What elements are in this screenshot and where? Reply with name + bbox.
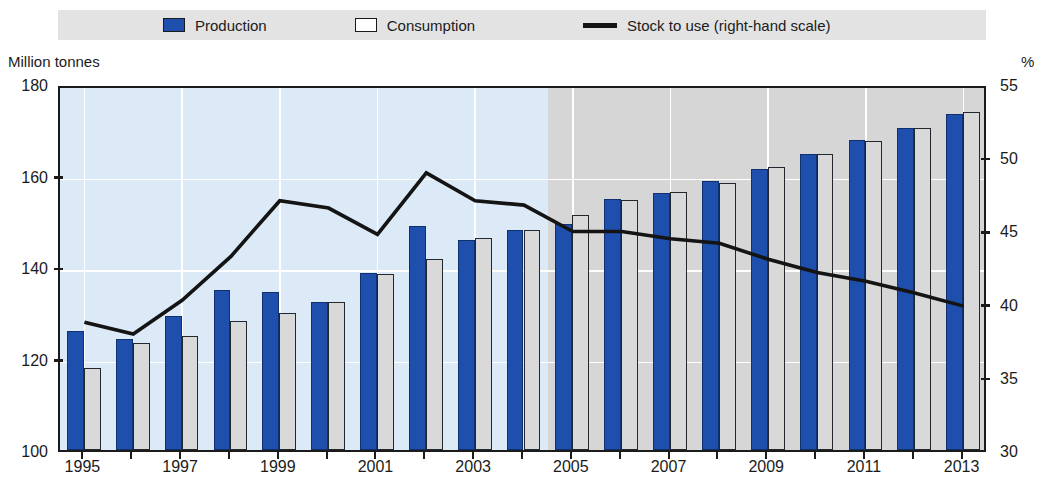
stock-to-use-line: [60, 88, 984, 450]
right-axis-tick-label: 55: [1000, 78, 1042, 94]
blue-square-swatch-icon: [163, 18, 185, 32]
right-axis-tick: [981, 378, 990, 381]
x-axis-tick-label: 2013: [944, 458, 980, 476]
left-axis-tick-label: 100: [6, 444, 48, 460]
right-axis-tick: [981, 231, 990, 234]
x-axis-tick-label: 1999: [260, 458, 296, 476]
legend-label-stock-to-use: Stock to use (right-hand scale): [627, 17, 830, 34]
left-axis-tick: [54, 268, 63, 271]
x-axis-tick: [912, 452, 914, 459]
x-axis-tick: [423, 452, 425, 459]
right-axis-caption: %: [1021, 53, 1034, 70]
x-axis-tick-label: 2005: [553, 458, 589, 476]
legend-item-consumption: Consumption: [355, 17, 475, 34]
stock-to-use-polyline: [84, 173, 963, 334]
left-axis-tick-label: 140: [6, 261, 48, 277]
x-axis-tick: [716, 452, 718, 459]
x-axis-tick-label: 2011: [847, 458, 881, 476]
x-axis-tick-label: 2007: [651, 458, 687, 476]
x-axis-tick-label: 1995: [65, 458, 101, 476]
right-axis-tick-label: 45: [1000, 224, 1042, 240]
black-line-swatch-icon: [583, 23, 617, 28]
x-axis-tick: [814, 452, 816, 459]
left-axis-tick: [54, 359, 63, 362]
left-axis-tick-label: 120: [6, 353, 48, 369]
left-axis-tick-label: 160: [6, 170, 48, 186]
right-axis-tick-label: 40: [1000, 298, 1042, 314]
right-axis-tick: [981, 304, 990, 307]
white-square-swatch-icon: [355, 18, 377, 32]
legend-item-production: Production: [163, 17, 267, 34]
right-axis-tick-label: 50: [1000, 151, 1042, 167]
right-axis-tick-label: 35: [1000, 371, 1042, 387]
x-axis-tick-label: 1997: [162, 458, 198, 476]
chart-root: Production Consumption Stock to use (rig…: [0, 0, 1044, 481]
x-axis-tick: [326, 452, 328, 459]
right-axis-tick: [981, 158, 990, 161]
x-axis-tick: [130, 452, 132, 459]
plot-area: [58, 86, 986, 452]
x-axis-tick-label: 2001: [358, 458, 394, 476]
legend-label-production: Production: [195, 17, 267, 34]
legend-item-stock-to-use: Stock to use (right-hand scale): [583, 17, 830, 34]
left-axis-tick-label: 180: [6, 78, 48, 94]
chart-legend: Production Consumption Stock to use (rig…: [58, 10, 986, 40]
x-axis-tick: [619, 452, 621, 459]
x-axis-tick-label: 2003: [455, 458, 491, 476]
left-axis-caption: Million tonnes: [8, 53, 100, 70]
legend-label-consumption: Consumption: [387, 17, 475, 34]
left-axis-tick: [54, 176, 63, 179]
right-axis-tick-label: 30: [1000, 444, 1042, 460]
x-axis-tick: [521, 452, 523, 459]
x-axis-tick-label: 2009: [748, 458, 784, 476]
x-axis-tick: [228, 452, 230, 459]
